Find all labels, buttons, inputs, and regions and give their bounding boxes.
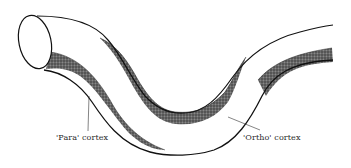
fibre-drawing bbox=[0, 0, 351, 168]
ortho-cortex-band-middle bbox=[100, 38, 246, 124]
ortho-leader-line bbox=[228, 117, 260, 130]
para-leader-line bbox=[88, 96, 89, 131]
para-cortex-label: 'Para' cortex bbox=[56, 133, 108, 142]
ortho-cortex-band-right bbox=[258, 48, 333, 96]
fibre-diagram: 'Para' cortex 'Ortho' cortex bbox=[0, 0, 351, 168]
ortho-cortex-label: 'Ortho' cortex bbox=[243, 133, 301, 142]
